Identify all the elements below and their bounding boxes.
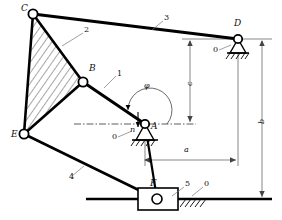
link-label-1: 1 <box>117 70 122 78</box>
link-label-5: 5 <box>185 180 190 188</box>
linkage-bars <box>24 14 238 199</box>
diagram-canvas: C B E A D F 1 2 3 4 5 0 0 0 φ n a b c <box>0 0 282 220</box>
joint-label-E: E <box>11 130 18 139</box>
link-label-3: 3 <box>164 14 169 22</box>
pin-joint-E <box>19 129 28 138</box>
leader-ground-D <box>219 45 231 50</box>
ground-label-A: 0 <box>112 133 117 141</box>
link-3-bar <box>33 14 238 39</box>
dimension-lines <box>145 39 272 197</box>
dimension-label-b: b <box>258 119 266 124</box>
pin-joint-B <box>78 77 87 86</box>
normal-arrow-label: n <box>130 126 135 134</box>
leader-ground-F <box>192 187 203 196</box>
link-label-4: 4 <box>69 173 74 181</box>
joint-label-B: B <box>89 64 96 73</box>
link-1-bar <box>83 82 145 124</box>
ground-label-D: 0 <box>213 46 218 54</box>
mechanism-drawing <box>0 0 282 220</box>
leader-link-2 <box>62 33 83 46</box>
dimension-label-a: a <box>184 146 189 154</box>
pin-joint-C <box>28 9 37 18</box>
link-label-2: 2 <box>84 26 89 34</box>
joint-label-F: F <box>150 179 156 188</box>
joint-label-C: C <box>21 4 28 13</box>
joint-label-D: D <box>234 19 241 28</box>
joint-label-A: A <box>151 122 158 131</box>
leader-link-1 <box>104 76 116 88</box>
angle-phi-label: φ <box>144 82 150 90</box>
ground-label-F: 0 <box>204 180 209 188</box>
slider-block-F <box>138 188 178 210</box>
leader-lines <box>62 21 231 196</box>
dimension-label-c: c <box>186 82 194 86</box>
